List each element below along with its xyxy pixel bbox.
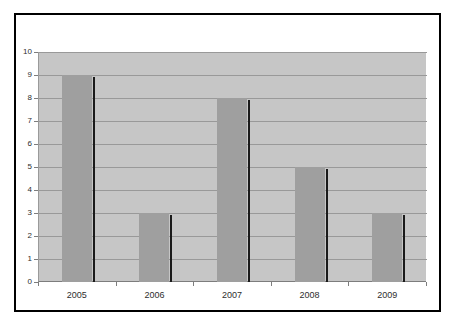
x-axis-category-label: 2008 — [271, 290, 349, 301]
y-axis-tick-label: 0 — [8, 277, 32, 287]
y-axis-tick — [34, 121, 38, 122]
bar-shadow-2006 — [170, 215, 172, 282]
x-axis-tick — [348, 282, 349, 286]
y-axis-tick — [34, 98, 38, 99]
chart-frame: 01234567891020052006200720082009 — [14, 13, 441, 312]
y-axis-tick-label: 10 — [8, 47, 32, 57]
bar-shadow-2005 — [93, 77, 95, 282]
y-axis-tick-label: 5 — [8, 162, 32, 172]
y-axis-tick — [34, 144, 38, 145]
gridline-10 — [39, 52, 427, 53]
y-axis-tick — [34, 213, 38, 214]
x-axis-category-label: 2009 — [348, 290, 426, 301]
x-axis-tick — [271, 282, 272, 286]
bar-shadow-2008 — [326, 169, 328, 282]
y-axis-tick-label: 2 — [8, 231, 32, 241]
y-axis-tick — [34, 52, 38, 53]
x-axis-category-label: 2006 — [116, 290, 194, 301]
x-axis-tick — [193, 282, 194, 286]
bar-shadow-2007 — [248, 100, 250, 282]
y-axis-tick — [34, 190, 38, 191]
y-axis-tick — [34, 236, 38, 237]
y-axis-tick-label: 8 — [8, 93, 32, 103]
bar-2008 — [295, 167, 325, 282]
chart-canvas: 01234567891020052006200720082009 — [0, 0, 456, 329]
bar-2006 — [139, 213, 169, 282]
bar-2009 — [372, 213, 402, 282]
y-axis-tick-label: 7 — [8, 116, 32, 126]
y-axis-tick-label: 1 — [8, 254, 32, 264]
gridline-9 — [39, 75, 427, 76]
y-axis-tick-label: 3 — [8, 208, 32, 218]
y-axis-tick — [34, 259, 38, 260]
bar-shadow-2009 — [403, 215, 405, 282]
x-axis-tick — [38, 282, 39, 286]
bar-2007 — [217, 98, 247, 282]
y-axis-tick-label: 6 — [8, 139, 32, 149]
x-axis-category-label: 2005 — [38, 290, 116, 301]
y-axis-tick-label: 4 — [8, 185, 32, 195]
x-axis-tick — [116, 282, 117, 286]
bar-2005 — [62, 75, 92, 282]
y-axis-tick — [34, 75, 38, 76]
y-axis-tick-label: 9 — [8, 70, 32, 80]
y-axis-tick — [34, 167, 38, 168]
x-axis-category-label: 2007 — [193, 290, 271, 301]
x-axis-tick — [426, 282, 427, 286]
